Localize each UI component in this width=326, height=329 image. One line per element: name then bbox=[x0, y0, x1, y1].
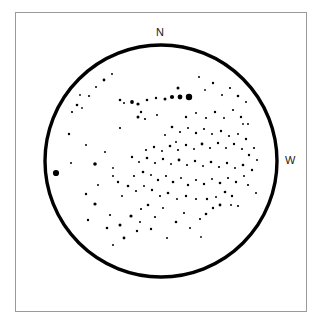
star-marker bbox=[104, 151, 106, 153]
star-marker bbox=[137, 116, 140, 119]
star-marker bbox=[76, 104, 79, 107]
star-marker bbox=[144, 118, 146, 120]
star-marker bbox=[123, 102, 125, 104]
star-marker bbox=[151, 189, 153, 191]
field-of-view-plot bbox=[0, 0, 326, 329]
star-marker bbox=[224, 191, 227, 194]
star-marker bbox=[123, 237, 126, 240]
star-marker bbox=[211, 178, 213, 180]
star-marker bbox=[232, 109, 234, 111]
star-marker bbox=[214, 111, 216, 113]
star-marker bbox=[140, 111, 142, 113]
star-marker bbox=[169, 145, 172, 148]
star-marker bbox=[127, 185, 130, 188]
star-marker bbox=[178, 95, 183, 100]
star-marker bbox=[253, 147, 255, 149]
star-marker bbox=[245, 101, 247, 103]
star-marker bbox=[183, 212, 185, 214]
star-marker bbox=[198, 76, 200, 78]
star-marker bbox=[201, 143, 204, 146]
star-marker bbox=[138, 161, 140, 163]
star-marker bbox=[199, 218, 201, 220]
star-marker bbox=[229, 87, 231, 89]
star-marker bbox=[111, 73, 113, 75]
star-marker bbox=[212, 207, 214, 209]
star-marker bbox=[203, 183, 205, 185]
star-marker bbox=[180, 177, 182, 179]
star-marker bbox=[217, 142, 219, 144]
star-marker bbox=[204, 89, 206, 91]
star-marker bbox=[143, 185, 145, 187]
star-marker bbox=[194, 160, 196, 162]
star-marker bbox=[237, 133, 239, 135]
star-chart-page: N W bbox=[0, 0, 326, 329]
star-marker bbox=[195, 198, 197, 200]
star-marker bbox=[70, 162, 72, 164]
star-marker bbox=[178, 159, 181, 162]
star-marker bbox=[171, 126, 174, 129]
star-marker bbox=[119, 99, 122, 102]
compass-label-west: W bbox=[285, 155, 296, 166]
star-marker bbox=[172, 181, 175, 184]
star-marker bbox=[165, 175, 167, 177]
star-marker bbox=[228, 135, 230, 137]
star-marker bbox=[256, 159, 258, 161]
star-marker bbox=[234, 167, 236, 169]
star-marker bbox=[215, 196, 217, 198]
star-marker bbox=[162, 158, 164, 160]
star-marker bbox=[166, 237, 168, 239]
star-marker bbox=[159, 195, 161, 197]
star-marker bbox=[235, 181, 237, 183]
star-marker bbox=[139, 221, 141, 223]
star-marker bbox=[195, 179, 197, 181]
star-marker bbox=[231, 195, 233, 197]
star-marker bbox=[206, 198, 208, 200]
star-marker bbox=[187, 184, 189, 186]
star-marker bbox=[93, 162, 97, 166]
star-marker bbox=[153, 146, 155, 148]
star-marker bbox=[119, 224, 122, 227]
star-marker bbox=[117, 181, 119, 183]
star-marker bbox=[212, 82, 214, 84]
star-marker bbox=[203, 128, 205, 130]
star-marker bbox=[135, 190, 137, 192]
star-marker bbox=[211, 133, 213, 135]
star-marker bbox=[112, 167, 114, 169]
star-marker bbox=[175, 141, 177, 143]
star-marker bbox=[146, 99, 149, 102]
star-marker bbox=[130, 100, 134, 104]
star-marker bbox=[121, 195, 123, 197]
star-marker bbox=[185, 195, 187, 197]
star-marker bbox=[119, 127, 121, 129]
star-marker bbox=[112, 175, 114, 177]
star-marker bbox=[79, 94, 81, 96]
star-marker bbox=[81, 107, 83, 109]
star-marker bbox=[150, 228, 152, 230]
star-marker bbox=[186, 94, 192, 100]
star-marker bbox=[195, 132, 197, 134]
star-marker bbox=[162, 207, 164, 209]
star-marker bbox=[255, 192, 257, 194]
star-marker bbox=[177, 87, 180, 90]
star-marker bbox=[219, 182, 222, 185]
star-marker bbox=[112, 244, 114, 246]
field-of-view-circle bbox=[45, 45, 277, 277]
star-marker bbox=[185, 144, 187, 146]
star-marker bbox=[164, 98, 167, 101]
star-marker bbox=[154, 162, 156, 164]
star-marker bbox=[248, 154, 250, 156]
star-marker bbox=[170, 95, 174, 99]
star-marker bbox=[147, 204, 150, 207]
star-marker bbox=[157, 179, 159, 181]
star-marker bbox=[88, 95, 90, 97]
star-marker bbox=[241, 148, 243, 150]
star-marker bbox=[136, 230, 138, 232]
star-marker bbox=[195, 112, 197, 114]
star-marker bbox=[247, 123, 249, 125]
star-marker bbox=[225, 147, 227, 149]
star-marker bbox=[240, 116, 242, 118]
star-marker bbox=[221, 94, 223, 96]
star-marker bbox=[189, 227, 191, 229]
star-marker bbox=[133, 175, 135, 177]
star-marker bbox=[170, 163, 172, 165]
